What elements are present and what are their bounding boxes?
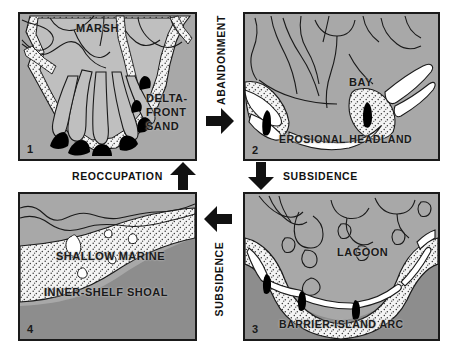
panel-2-erosional-headland: BAY EROSIONAL HEADLAND 2 xyxy=(243,12,440,161)
panel-1-number: 1 xyxy=(27,143,33,155)
panel-1-delta: MARSH DELTA- FRONT SAND 1 xyxy=(18,12,197,161)
transition-reoccupation-label: REOCCUPATION xyxy=(72,170,163,182)
arrow-down-subsidence xyxy=(248,162,274,190)
panel-4-inner-shelf-shoal: SHALLOW MARINE INNER-SHELF SHOAL 4 xyxy=(18,192,197,341)
arrow-up-reoccupation xyxy=(170,162,196,190)
panel-4-number: 4 xyxy=(27,323,33,335)
transition-subsidence-label-side: SUBSIDENCE xyxy=(213,219,225,339)
arrow-right-abandonment xyxy=(206,108,234,134)
transition-abandonment-label: ABANDONMENT xyxy=(215,0,227,120)
transition-subsidence-label-top: SUBSIDENCE xyxy=(283,170,358,182)
panel-3-number: 3 xyxy=(252,323,258,335)
panel-2-number: 2 xyxy=(252,144,258,156)
deltaic-cycle-diagram: MARSH DELTA- FRONT SAND 1 xyxy=(0,0,453,350)
panel-3-barrier-island-arc: LAGOON BARRIER-ISLAND ARC 3 xyxy=(243,192,440,341)
